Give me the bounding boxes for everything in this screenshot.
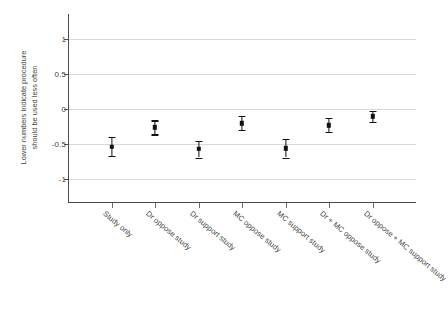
y-axis-tick-labels: 10.50-0.5-1 xyxy=(40,0,66,220)
x-tick-label: Dr oppose study xyxy=(144,209,193,252)
gridline xyxy=(68,109,416,110)
y-tick-mark xyxy=(64,109,69,110)
y-axis-title-line-2: should be used less often xyxy=(29,66,40,150)
data-point xyxy=(370,114,374,118)
y-tick-mark xyxy=(64,179,69,180)
error-bar-cap xyxy=(108,156,115,157)
plot-area xyxy=(68,14,416,203)
x-tick-label: Dr oppose + MC support study xyxy=(362,209,448,283)
error-bar-cap xyxy=(282,158,289,159)
gridline xyxy=(68,144,416,145)
data-point xyxy=(327,123,331,127)
x-tick-label: Study only xyxy=(101,209,134,239)
x-tick-label: Dr support study xyxy=(188,209,237,252)
y-axis-title-line-1: Lower numbers indicate procedure xyxy=(18,51,29,165)
y-tick-mark xyxy=(64,74,69,75)
error-bar-cap xyxy=(152,120,159,121)
data-point xyxy=(196,147,200,151)
data-point xyxy=(240,121,244,125)
error-bar-cap xyxy=(282,139,289,140)
error-bar-cap xyxy=(369,122,376,123)
data-point xyxy=(153,125,157,129)
y-tick-mark xyxy=(64,144,69,145)
error-bar-cap xyxy=(152,134,159,135)
error-bar-cap xyxy=(326,132,333,133)
error-bar-cap xyxy=(108,137,115,138)
error-bar-cap xyxy=(326,118,333,119)
error-bar-cap xyxy=(195,141,202,142)
x-axis-tick-labels: Study onlyDr oppose studyDr support stud… xyxy=(68,203,434,314)
error-bar-cap xyxy=(195,158,202,159)
error-bar-cap xyxy=(239,130,246,131)
error-bar-cap xyxy=(239,116,246,117)
data-point xyxy=(109,145,113,149)
error-bar-cap xyxy=(369,111,376,112)
y-tick-mark xyxy=(64,39,69,40)
gridline xyxy=(68,39,416,40)
gridline xyxy=(68,74,416,75)
gridline xyxy=(68,179,416,180)
data-point xyxy=(283,146,287,150)
